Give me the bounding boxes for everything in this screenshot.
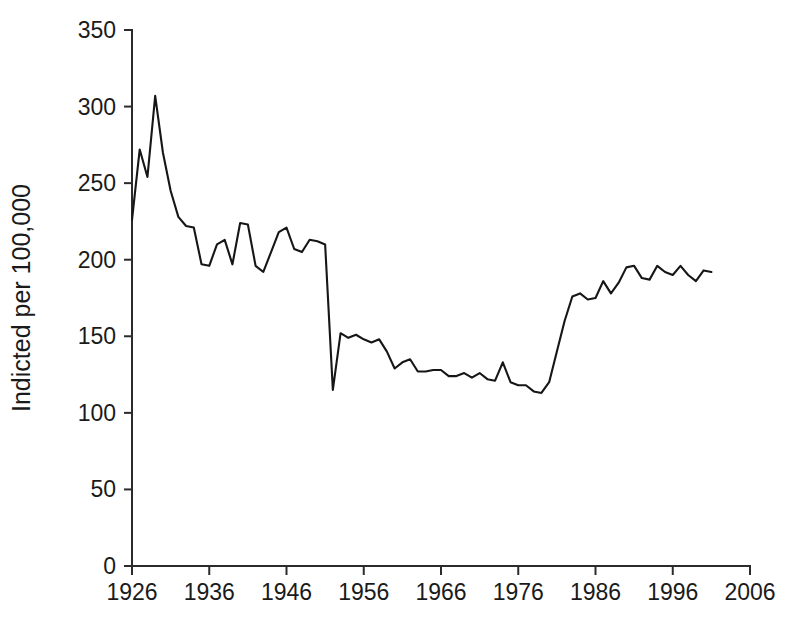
y-axis-tick-label: 200 <box>78 247 116 273</box>
chart-tick-labels: 0501001502002503003501926193619461956196… <box>78 17 776 605</box>
x-axis-tick-label: 2006 <box>724 579 775 605</box>
y-axis-tick-label: 250 <box>78 170 116 196</box>
chart-figure: 0501001502002503003501926193619461956196… <box>0 0 793 626</box>
x-axis-tick-label: 1936 <box>184 579 235 605</box>
y-axis-tick-label: 150 <box>78 323 116 349</box>
chart-axes <box>124 30 750 575</box>
x-axis-tick-label: 1986 <box>570 579 621 605</box>
y-axis-title-text: Indicted per 100,000 <box>7 184 35 412</box>
y-axis-tick-label: 50 <box>90 476 116 502</box>
y-axis-tick-label: 300 <box>78 94 116 120</box>
x-axis-tick-label: 1976 <box>493 579 544 605</box>
y-axis-tick-label: 0 <box>103 553 116 579</box>
y-axis-tick-label: 350 <box>78 17 116 43</box>
y-axis-title: Indicted per 100,000 <box>7 184 35 412</box>
x-axis-tick-label: 1996 <box>647 579 698 605</box>
x-axis-tick-label: 1956 <box>338 579 389 605</box>
y-axis-tick-label: 100 <box>78 400 116 426</box>
x-axis-tick-label: 1946 <box>261 579 312 605</box>
line-chart-plot: 0501001502002503003501926193619461956196… <box>0 0 793 626</box>
data-line-series-0 <box>132 96 711 393</box>
x-axis-tick-label: 1966 <box>415 579 466 605</box>
chart-series <box>132 96 711 393</box>
x-axis-tick-label: 1926 <box>106 579 157 605</box>
